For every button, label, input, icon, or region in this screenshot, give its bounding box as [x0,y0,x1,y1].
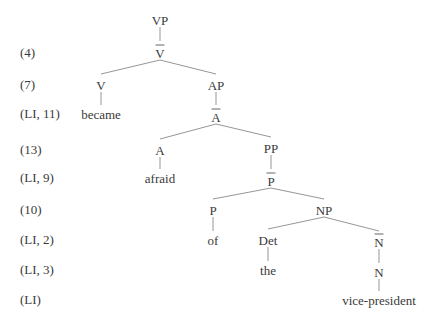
row-label: (LI, 3) [20,262,54,277]
tree-edge [324,217,379,231]
row-label: (LI) [20,292,41,307]
tree-node-afraid: afraid [145,171,176,186]
tree-node-vicepresident: vice-president [342,293,416,308]
tree-nodes: VPVVbecameAPAAafraidPPPPofNPDettheNNvice… [81,13,416,308]
row-label: (10) [20,202,42,217]
tree-node-became: became [81,107,121,122]
tree-node-vbar: V [155,46,165,61]
tree-edges [101,27,379,291]
tree-edge [268,217,324,229]
tree-node-the: the [260,263,276,278]
tree-node-pp: PP [264,141,278,156]
tree-edge [213,188,271,199]
tree-node-nbar: N [374,235,384,250]
tree-node-n: N [374,265,384,280]
tree-edge [160,60,216,74]
tree-node-np: NP [316,203,333,218]
tree-node-v: V [96,78,106,93]
syntax-tree-diagram: (4)(7)(LI, 11)(13)(LI, 9)(10)(LI, 2)(LI,… [0,0,428,321]
tree-node-vp: VP [152,13,169,28]
row-label: (13) [20,142,42,157]
tree-node-abar: A [211,110,221,125]
row-label: (4) [20,45,35,60]
row-label: (LI, 2) [20,232,54,247]
row-label: (7) [20,77,35,92]
tree-node-pbar: P [267,174,274,189]
tree-node-det: Det [259,233,278,248]
tree-node-p: P [209,203,216,218]
tree-node-a: A [155,143,165,158]
row-labels: (4)(7)(LI, 11)(13)(LI, 9)(10)(LI, 2)(LI,… [20,45,60,307]
row-label: (LI, 9) [20,170,54,185]
tree-edge [271,188,324,199]
tree-node-of: of [208,233,220,248]
row-label: (LI, 11) [20,106,60,121]
tree-edge [160,124,216,139]
tree-edge [216,124,271,137]
tree-node-ap: AP [208,78,225,93]
tree-edge [101,60,160,74]
